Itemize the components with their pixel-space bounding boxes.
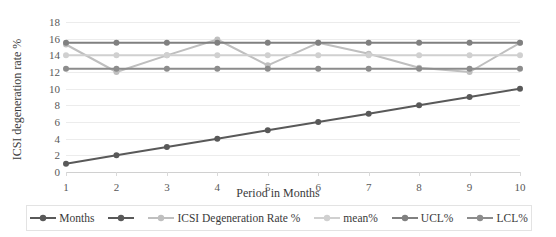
data-point-marker — [517, 66, 523, 72]
data-point-marker — [517, 40, 523, 46]
series-layer — [66, 22, 520, 172]
data-point-marker — [416, 102, 422, 108]
legend-item[interactable]: LCL% — [467, 212, 527, 224]
x-tick-mark — [520, 172, 521, 176]
y-tick-label: 14 — [34, 50, 60, 61]
legend-label: LCL% — [496, 212, 527, 224]
x-axis-title: Period in Months — [0, 186, 556, 201]
legend-swatch-icon — [314, 213, 340, 223]
data-point-marker — [113, 40, 119, 46]
y-tick-label: 16 — [34, 34, 60, 45]
x-tick-mark — [419, 172, 420, 176]
legend-label: Months — [59, 212, 94, 224]
legend-swatch-icon — [392, 213, 418, 223]
legend-label: ICSI Degeneration Rate % — [177, 212, 300, 224]
legend-item[interactable]: UCL% — [392, 212, 454, 224]
legend-swatch-icon — [148, 213, 174, 223]
data-point-marker — [467, 40, 473, 46]
x-tick-mark — [470, 172, 471, 176]
x-tick-mark — [369, 172, 370, 176]
data-point-marker — [517, 86, 523, 92]
data-point-marker — [416, 40, 422, 46]
y-tick-label: 8 — [34, 100, 60, 111]
data-point-marker — [265, 40, 271, 46]
data-point-marker — [416, 66, 422, 72]
data-point-marker — [113, 152, 119, 158]
data-point-marker — [214, 52, 220, 58]
data-point-marker — [315, 119, 321, 125]
data-point-marker — [315, 52, 321, 58]
data-point-marker — [467, 66, 473, 72]
line-chart: ICSI degeneration rate % 024681012141618… — [0, 0, 556, 237]
x-tick-mark — [116, 172, 117, 176]
data-point-marker — [113, 52, 119, 58]
plot-area — [66, 22, 520, 172]
data-point-marker — [164, 52, 170, 58]
data-point-marker — [366, 52, 372, 58]
legend-swatch-icon — [108, 213, 134, 223]
data-point-marker — [366, 111, 372, 117]
data-point-marker — [214, 40, 220, 46]
legend-swatch-icon — [467, 213, 493, 223]
data-point-marker — [63, 40, 69, 46]
legend-swatch-icon — [30, 213, 56, 223]
x-tick-mark — [217, 172, 218, 176]
legend-label: UCL% — [421, 212, 454, 224]
x-tick-mark — [318, 172, 319, 176]
legend-item[interactable] — [108, 213, 134, 223]
data-point-marker — [214, 66, 220, 72]
legend-item[interactable]: ICSI Degeneration Rate % — [148, 212, 300, 224]
data-point-marker — [366, 66, 372, 72]
data-point-marker — [265, 52, 271, 58]
data-point-marker — [265, 127, 271, 133]
gridline — [66, 172, 520, 173]
y-tick-label: 12 — [34, 67, 60, 78]
data-point-marker — [63, 52, 69, 58]
series-line — [66, 89, 520, 164]
data-point-marker — [164, 144, 170, 150]
data-point-marker — [214, 136, 220, 142]
legend-label: mean% — [343, 212, 377, 224]
y-tick-label: 4 — [34, 134, 60, 145]
data-point-marker — [517, 52, 523, 58]
data-point-marker — [164, 40, 170, 46]
data-point-marker — [63, 66, 69, 72]
y-tick-label: 10 — [34, 84, 60, 95]
data-point-marker — [366, 40, 372, 46]
data-point-marker — [113, 66, 119, 72]
x-tick-mark — [66, 172, 67, 176]
chart-legend: MonthsICSI Degeneration Rate %mean%UCL%L… — [26, 205, 532, 231]
x-tick-mark — [268, 172, 269, 176]
data-point-marker — [315, 66, 321, 72]
y-tick-label: 2 — [34, 150, 60, 161]
y-tick-label: 6 — [34, 117, 60, 128]
data-point-marker — [164, 66, 170, 72]
data-point-marker — [315, 40, 321, 46]
x-tick-mark — [167, 172, 168, 176]
data-point-marker — [265, 66, 271, 72]
data-point-marker — [63, 161, 69, 167]
legend-item[interactable]: mean% — [314, 212, 377, 224]
y-axis-title: ICSI degeneration rate % — [10, 15, 25, 185]
data-point-marker — [467, 94, 473, 100]
legend-item[interactable]: Months — [30, 212, 94, 224]
y-tick-label: 18 — [34, 17, 60, 28]
data-point-marker — [467, 52, 473, 58]
data-point-marker — [416, 52, 422, 58]
y-tick-label: 0 — [34, 167, 60, 178]
